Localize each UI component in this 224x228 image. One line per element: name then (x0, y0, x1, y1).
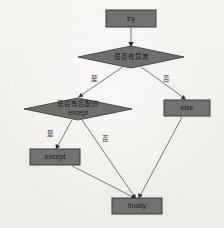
flowchart-svg: try 是否有异常 是否有匹配的 except else except fina… (0, 0, 224, 228)
node-except-label: except (44, 152, 65, 161)
node-has-exception[interactable]: 是否有异常 (78, 46, 184, 68)
node-try[interactable]: try (106, 10, 156, 27)
node-has-matching-except-label: 是否有匹配的 (57, 99, 99, 108)
edge-else-to-finally (138, 117, 182, 199)
node-else[interactable]: else (164, 100, 210, 116)
flowchart-canvas: try 是否有异常 是否有匹配的 except else except fina… (0, 0, 224, 228)
node-has-matching-except-label-line2: except (68, 109, 88, 117)
edge-has-exception-no (140, 66, 186, 100)
edge-label-yes-bottom: 是 (47, 130, 54, 138)
edge-label-yes-top: 是 (91, 75, 98, 83)
edge-has-matching-except-yes (56, 120, 72, 150)
edge-label-no-bottom: 否 (102, 135, 109, 143)
node-finally[interactable]: finally (112, 198, 162, 214)
edge-try-to-has-exception (128, 27, 133, 47)
node-try-label: try (127, 14, 135, 23)
edge-has-exception-yes (78, 66, 124, 98)
node-finally-label: finally (128, 201, 147, 210)
node-except[interactable]: except (30, 149, 80, 165)
node-has-matching-except[interactable]: 是否有匹配的 except (24, 98, 132, 120)
edge-has-matching-except-no (82, 120, 136, 199)
edge-label-no-top: 否 (163, 75, 170, 83)
node-else-label: else (180, 103, 193, 112)
edge-except-to-finally (72, 166, 136, 199)
node-has-exception-label: 是否有异常 (114, 52, 149, 61)
